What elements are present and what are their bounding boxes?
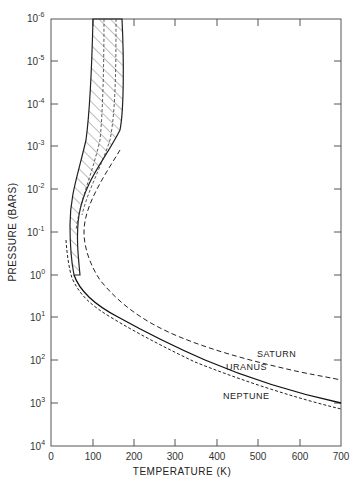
svg-text:400: 400 bbox=[209, 451, 226, 462]
svg-text:600: 600 bbox=[292, 451, 309, 462]
svg-text:101: 101 bbox=[30, 310, 45, 323]
svg-text:10-6: 10-6 bbox=[27, 11, 44, 24]
svg-text:200: 200 bbox=[126, 451, 143, 462]
y-tick-labels: 10-6 10-5 10-4 10-3 10-2 10-1 100 101 10… bbox=[27, 11, 45, 452]
saturn-curve bbox=[84, 150, 341, 380]
uranus-label: URANUS bbox=[226, 362, 267, 372]
x-ticks bbox=[93, 19, 300, 446]
svg-text:10-1: 10-1 bbox=[27, 225, 44, 238]
svg-text:10-3: 10-3 bbox=[27, 139, 44, 152]
svg-text:102: 102 bbox=[30, 353, 45, 366]
svg-text:300: 300 bbox=[167, 451, 184, 462]
x-axis-title: TEMPERATURE (K) bbox=[133, 466, 231, 477]
svg-text:10-5: 10-5 bbox=[27, 54, 44, 67]
svg-text:104: 104 bbox=[30, 439, 45, 452]
x-tick-labels: 0 100 200 300 400 500 600 700 bbox=[48, 451, 350, 462]
svg-text:500: 500 bbox=[250, 451, 267, 462]
uncertainty-band bbox=[70, 19, 123, 275]
svg-text:103: 103 bbox=[30, 396, 45, 409]
svg-text:700: 700 bbox=[333, 451, 350, 462]
svg-text:100: 100 bbox=[85, 451, 102, 462]
svg-text:10-2: 10-2 bbox=[27, 182, 44, 195]
svg-text:0: 0 bbox=[48, 451, 54, 462]
svg-text:100: 100 bbox=[30, 268, 45, 281]
neptune-curve bbox=[66, 240, 341, 409]
neptune-label: NEPTUNE bbox=[223, 391, 270, 401]
y-axis-title: PRESSURE (BARS) bbox=[7, 182, 18, 281]
saturn-label: SATURN bbox=[257, 349, 296, 359]
svg-text:10-4: 10-4 bbox=[27, 97, 44, 110]
uranus-curve bbox=[74, 275, 341, 403]
pressure-temperature-chart: 10-6 10-5 10-4 10-3 10-2 10-1 100 101 10… bbox=[0, 0, 359, 485]
